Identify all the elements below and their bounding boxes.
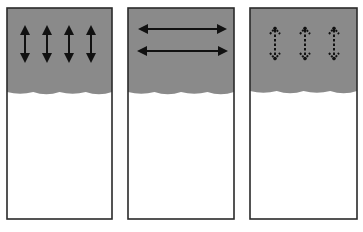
medium-fill — [7, 8, 112, 94]
panels-group — [7, 8, 357, 219]
container-1 — [7, 8, 112, 219]
container-2 — [128, 8, 234, 219]
container-3 — [250, 8, 357, 219]
medium-fill — [250, 8, 357, 93]
diagram-canvas — [0, 0, 363, 232]
